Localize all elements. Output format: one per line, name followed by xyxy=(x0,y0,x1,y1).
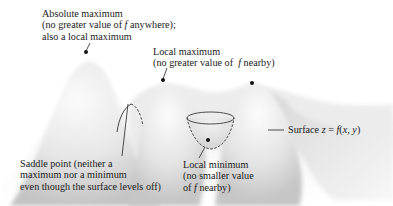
saddle-point-line-2: maximum nor a minimum xyxy=(20,169,161,180)
local-minimum-label: Local minimum (no smaller value of f nea… xyxy=(183,159,254,193)
local-maximum-line-2: (no greater value of f nearby) xyxy=(153,57,275,68)
local-minimum-line-3: of f nearby) xyxy=(183,182,254,193)
local-maximum-line-1: Local maximum xyxy=(153,46,275,57)
surface-diagram: Absolute maximum (no greater value of f … xyxy=(0,0,393,206)
absolute-maximum-label: Absolute maximum (no greater value of f … xyxy=(42,8,176,42)
saddle-point-line-1: Saddle point (neither a xyxy=(20,158,161,169)
absolute-maximum-line-3: also a local maximum xyxy=(42,31,176,42)
local-maximum-label: Local maximum (no greater value of f nea… xyxy=(153,46,275,69)
surface-label: Surface z = f(x, y) xyxy=(288,124,360,135)
saddle-point-label: Saddle point (neither a maximum nor a mi… xyxy=(20,158,161,192)
surface-equation: Surface z = f(x, y) xyxy=(288,124,360,135)
absolute-maximum-line-1: Absolute maximum xyxy=(42,8,176,19)
local-minimum-line-2: (no smaller value xyxy=(183,170,254,181)
local-minimum-line-1: Local minimum xyxy=(183,159,254,170)
saddle-point-line-3: even though the surface levels off) xyxy=(20,181,161,192)
absolute-maximum-line-2: (no greater value of f anywhere); xyxy=(42,19,176,30)
